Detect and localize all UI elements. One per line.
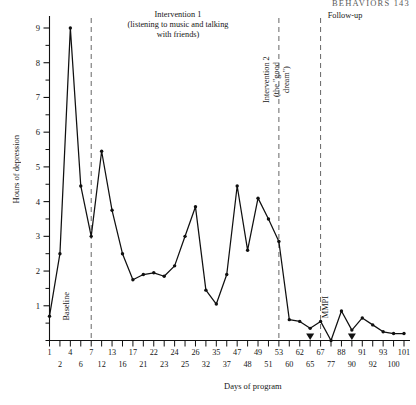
data-point	[329, 339, 332, 342]
x-tick-label: 37	[223, 360, 231, 369]
y-tick-label: 2	[26, 266, 40, 276]
data-point	[121, 252, 124, 255]
y-tick-label: 1	[26, 301, 40, 311]
data-point	[69, 26, 72, 29]
axis-marker-triangle	[348, 334, 356, 341]
data-point	[308, 327, 311, 330]
data-point	[100, 150, 103, 153]
x-tick-label: 21	[139, 360, 147, 369]
data-point	[392, 332, 395, 335]
data-point	[340, 309, 343, 312]
x-tick-label: 67	[316, 348, 324, 357]
data-point	[371, 323, 374, 326]
y-tick-label: 7	[26, 92, 40, 102]
plot-svg	[0, 0, 416, 405]
data-point	[131, 278, 134, 281]
x-tick-label: 12	[98, 360, 106, 369]
data-point	[162, 275, 165, 278]
data-point	[58, 252, 61, 255]
y-tick-label: 6	[26, 127, 40, 137]
x-tick-label: 16	[118, 360, 126, 369]
x-tick-label: 51	[264, 360, 272, 369]
x-tick-label: 62	[296, 348, 304, 357]
x-tick-label: 35	[212, 348, 220, 357]
x-tick-label: 26	[191, 348, 199, 357]
data-point	[256, 196, 259, 199]
x-tick-label: 32	[202, 360, 210, 369]
x-tick-label: 91	[358, 348, 366, 357]
x-tick-label: 23	[160, 360, 168, 369]
x-tick-label: 22	[150, 348, 158, 357]
x-tick-label: 13	[108, 348, 116, 357]
x-tick-label: 88	[337, 348, 345, 357]
data-point	[402, 332, 405, 335]
data-point	[142, 273, 145, 276]
data-point	[110, 209, 113, 212]
data-point	[235, 184, 238, 187]
y-tick-label: 4	[26, 197, 40, 207]
x-tick-label: 49	[254, 348, 262, 357]
x-tick-label: 4	[68, 348, 72, 357]
x-tick-label: 100	[387, 360, 399, 369]
data-point	[48, 314, 51, 317]
data-point	[381, 330, 384, 333]
data-point	[79, 184, 82, 187]
x-tick-label: 25	[181, 360, 189, 369]
x-tick-label: 77	[327, 360, 335, 369]
x-tick-label: 47	[233, 348, 241, 357]
x-tick-label: 65	[306, 360, 314, 369]
x-tick-label: 93	[379, 348, 387, 357]
data-point	[194, 205, 197, 208]
x-tick-label: 2	[58, 360, 62, 369]
data-point	[319, 320, 322, 323]
figure-container: BEHAVIORS 143 Intervention 1(listening t…	[0, 0, 416, 405]
data-point	[361, 316, 364, 319]
x-tick-label: 92	[369, 360, 377, 369]
x-tick-label: 60	[285, 360, 293, 369]
data-point	[152, 271, 155, 274]
data-point	[298, 320, 301, 323]
x-tick-label: 17	[129, 348, 137, 357]
data-point	[288, 318, 291, 321]
x-tick-label: 53	[275, 348, 283, 357]
x-tick-label: 48	[244, 360, 252, 369]
axis-marker-triangle	[306, 334, 314, 341]
x-tick-label: 1	[47, 348, 51, 357]
data-point	[173, 264, 176, 267]
x-tick-label: 24	[171, 348, 179, 357]
data-point	[215, 302, 218, 305]
y-tick-label: 9	[26, 23, 40, 33]
x-tick-label: 6	[79, 360, 83, 369]
y-tick-label: 3	[26, 231, 40, 241]
data-point	[225, 273, 228, 276]
data-point	[350, 328, 353, 331]
x-tick-label: 90	[348, 360, 356, 369]
x-tick-label: 101	[398, 348, 410, 357]
x-tick-label: 7	[89, 348, 93, 357]
data-point	[246, 249, 249, 252]
data-series-line	[50, 28, 405, 341]
data-point	[277, 240, 280, 243]
data-point	[183, 235, 186, 238]
data-point	[90, 235, 93, 238]
data-point	[204, 288, 207, 291]
data-point	[267, 217, 270, 220]
y-tick-label: 8	[26, 58, 40, 68]
y-tick-label: 5	[26, 162, 40, 172]
